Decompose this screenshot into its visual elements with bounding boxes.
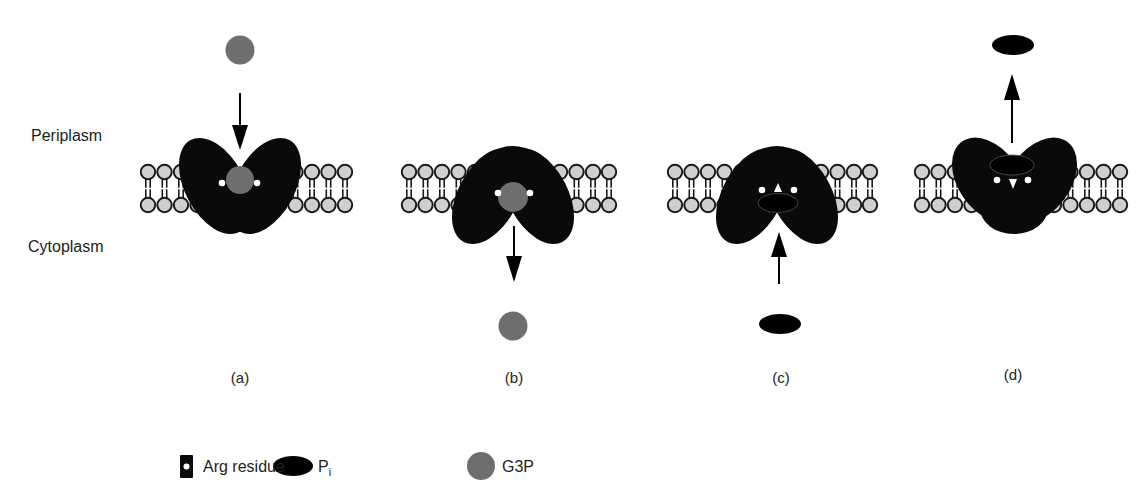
arg-residue-icon bbox=[219, 180, 226, 187]
pi-molecule bbox=[992, 35, 1034, 55]
arg-residue-icon bbox=[527, 190, 534, 197]
panel-a bbox=[141, 36, 352, 246]
arg-residue-icon bbox=[791, 187, 798, 194]
arg-residue-icon bbox=[1025, 177, 1032, 184]
arrow-down-icon bbox=[232, 93, 248, 150]
panel-d bbox=[915, 35, 1127, 236]
legend-arg-residue: Arg residue bbox=[203, 455, 285, 479]
legend-pi-subscript: i bbox=[329, 466, 331, 478]
g3p-legend-icon bbox=[467, 452, 495, 480]
arrow-up-icon bbox=[1004, 74, 1020, 143]
arg-residue-icon bbox=[994, 177, 1001, 184]
arg-residue-legend-dot bbox=[184, 464, 190, 470]
panel-label-a: (a) bbox=[231, 369, 249, 386]
periplasm-label: Periplasm bbox=[31, 127, 102, 145]
panel-label-d: (d) bbox=[1004, 366, 1022, 383]
g3p-molecule bbox=[499, 312, 528, 341]
panel-label-b: (b) bbox=[505, 369, 523, 386]
legend-pi: Pi bbox=[318, 455, 331, 479]
legend-arg-label: Arg residue bbox=[203, 458, 285, 476]
pi-bound bbox=[758, 194, 798, 213]
arg-residue-icon bbox=[254, 180, 261, 187]
transport-diagram bbox=[0, 0, 1142, 499]
g3p-molecule bbox=[226, 36, 255, 65]
arg-residue-icon bbox=[759, 187, 766, 194]
arrow-up-icon bbox=[771, 232, 787, 284]
panel-c bbox=[668, 136, 877, 334]
legend-g3p-label: G3P bbox=[502, 458, 534, 476]
arg-residue-icon bbox=[495, 190, 502, 197]
g3p-bound bbox=[226, 166, 254, 194]
legend-g3p: G3P bbox=[502, 455, 534, 479]
pi-bound bbox=[990, 155, 1034, 175]
cytoplasm-label: Cytoplasm bbox=[28, 238, 104, 256]
g3p-bound bbox=[498, 182, 528, 212]
panel-label-c: (c) bbox=[772, 369, 790, 386]
panel-b bbox=[402, 136, 616, 340]
arrow-down-icon bbox=[506, 226, 522, 282]
pi-molecule bbox=[759, 314, 801, 334]
legend-pi-label: P bbox=[318, 458, 329, 476]
